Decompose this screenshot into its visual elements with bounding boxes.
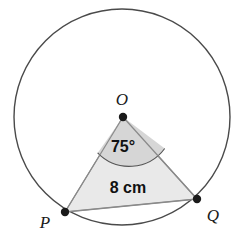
point-marker-P — [61, 208, 69, 216]
chord-length-label: 8 cm — [110, 179, 146, 196]
geometry-canvas: O P Q 75° 8 cm — [0, 0, 240, 243]
point-marker-Q — [193, 195, 201, 203]
point-marker-O — [119, 113, 127, 121]
angle-measure-label: 75° — [111, 138, 135, 155]
geometry-figure: O P Q 75° 8 cm — [0, 0, 240, 243]
point-label-Q: Q — [207, 206, 219, 225]
point-label-P: P — [39, 213, 50, 232]
point-label-O: O — [116, 90, 128, 109]
